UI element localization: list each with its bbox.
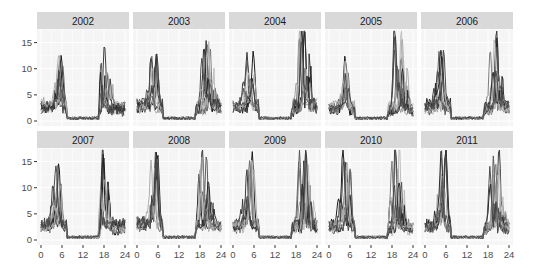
facet-panel-2009: 2009 bbox=[229, 131, 321, 245]
x-tick-label: 6 bbox=[155, 249, 160, 260]
facet-strip-label: 2006 bbox=[456, 16, 479, 27]
x-tick-label: 12 bbox=[366, 249, 377, 260]
facet-panel-2004: 2004 bbox=[229, 12, 321, 126]
facet-strip-label: 2002 bbox=[72, 16, 95, 27]
x-tick-label: 12 bbox=[270, 249, 281, 260]
facet-panel-2011: 2011 bbox=[421, 131, 513, 245]
x-tick-label: 6 bbox=[59, 249, 64, 260]
x-tick-label: 18 bbox=[99, 249, 110, 260]
x-tick-label: 6 bbox=[443, 249, 448, 260]
x-tick-label: 12 bbox=[78, 249, 89, 260]
facet-panel-2003: 2003 bbox=[133, 12, 225, 126]
x-tick-label: 0 bbox=[422, 249, 427, 260]
x-tick-label: 18 bbox=[195, 249, 206, 260]
x-tick-label: 24 bbox=[312, 249, 323, 260]
x-tick-label: 0 bbox=[134, 249, 139, 260]
facet-panel-2002: 2002 bbox=[37, 12, 129, 126]
x-tick-label: 24 bbox=[504, 249, 515, 260]
x-tick-label: 18 bbox=[387, 249, 398, 260]
x-tick-label: 6 bbox=[251, 249, 256, 260]
facet-strip-label: 2008 bbox=[168, 135, 191, 146]
x-tick-label: 6 bbox=[347, 249, 352, 260]
x-tick-label: 12 bbox=[462, 249, 473, 260]
y-tick-label: 15 bbox=[21, 156, 32, 167]
y-tick-label: 10 bbox=[21, 182, 32, 193]
x-tick-label: 24 bbox=[120, 249, 131, 260]
facet-strip-label: 2007 bbox=[72, 135, 95, 146]
facet-panel-2007: 2007 bbox=[37, 131, 129, 245]
x-tick-label: 24 bbox=[216, 249, 227, 260]
facet-strip-label: 2009 bbox=[264, 135, 287, 146]
y-tick-label: 5 bbox=[27, 208, 32, 219]
x-tick-label: 0 bbox=[326, 249, 331, 260]
facet-strip-label: 2003 bbox=[168, 16, 191, 27]
facet-strip-label: 2010 bbox=[360, 135, 383, 146]
facet-strip-label: 2005 bbox=[360, 16, 383, 27]
facet-strip-label: 2011 bbox=[456, 135, 478, 146]
facet-panel-2010: 2010 bbox=[325, 131, 417, 245]
faceted-line-chart: 2002051015200320042005200620070510150612… bbox=[0, 0, 535, 269]
x-tick-label: 12 bbox=[174, 249, 185, 260]
x-tick-label: 18 bbox=[483, 249, 494, 260]
facet-panel-2006: 2006 bbox=[421, 12, 513, 126]
facet-panel-2005: 2005 bbox=[325, 12, 417, 126]
x-tick-label: 24 bbox=[408, 249, 419, 260]
x-tick-label: 0 bbox=[230, 249, 235, 260]
y-tick-label: 15 bbox=[21, 37, 32, 48]
y-tick-label: 5 bbox=[27, 89, 32, 100]
facet-strip-label: 2004 bbox=[264, 16, 287, 27]
y-tick-label: 0 bbox=[27, 115, 32, 126]
x-tick-label: 0 bbox=[38, 249, 43, 260]
x-tick-label: 18 bbox=[291, 249, 302, 260]
facet-panel-2008: 2008 bbox=[133, 131, 225, 245]
y-tick-label: 10 bbox=[21, 63, 32, 74]
y-tick-label: 0 bbox=[27, 234, 32, 245]
